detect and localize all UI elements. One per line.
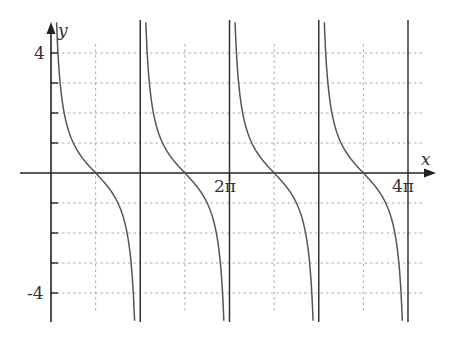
y-tick-label-4: 4 — [34, 43, 45, 63]
x-tick-label-2pi: 2π — [214, 176, 236, 196]
grid-lines — [51, 44, 422, 311]
x-tick-label-4pi: 4π — [392, 176, 414, 196]
x-axis-arrow-icon — [424, 169, 436, 178]
x-axis-label: x — [421, 149, 431, 169]
y-tick-label-neg4: -4 — [27, 283, 44, 303]
y-axis-label: y — [57, 20, 68, 40]
cotangent-plot: y x 2π 4π 4 -4 — [0, 0, 449, 340]
axes — [20, 22, 436, 322]
y-axis-arrow-icon — [47, 22, 56, 34]
